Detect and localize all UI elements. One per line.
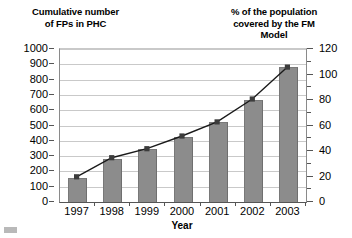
x-axis-tick-label: 2000 [162,205,202,217]
left-axis-tick-label: 600 [2,104,48,115]
left-axis-tick-mark [49,140,54,141]
left-axis-tick-mark [49,201,54,202]
bar [244,100,263,203]
right-axis-tick-mark [307,125,313,126]
x-axis-tick-label: 2003 [267,205,307,217]
x-axis-tick-label: 2002 [232,205,272,217]
gridline [60,126,306,127]
left-axis-tick-mark [49,109,54,110]
bar [103,159,122,202]
left-axis-title: Cumulative number of FPs in PHC [8,6,143,29]
right-axis-minor-tick-mark [307,137,311,138]
right-axis-tick-label: 0 [319,196,351,207]
right-axis-minor-tick-mark [307,61,311,62]
bar [279,67,298,202]
x-axis-tick-label: 2001 [197,205,237,217]
right-axis-tick-mark [307,176,313,177]
right-axis-tick-label: 100 [319,69,351,80]
x-axis-tick-label: 1997 [57,205,97,217]
right-value-axis: 020406080100120 [306,40,352,210]
right-axis-title: % of the population covered by the FM Mo… [206,6,342,41]
right-axis-minor-tick-mark [307,112,311,113]
x-axis-title: Year [142,220,222,231]
right-axis-tick-label: 80 [319,94,351,105]
plot-area [59,48,307,203]
right-axis-minor-tick-mark [307,163,311,164]
right-axis-minor-tick-mark [307,86,311,87]
right-axis-tick-mark [307,99,313,100]
bar [209,122,228,202]
right-axis-tick-label: 20 [319,171,351,182]
x-axis-tick-label: 1999 [127,205,167,217]
chart-container: Cumulative number of FPs in PHC % of the… [0,0,352,238]
left-axis-tick-label: 0 [2,196,48,207]
right-axis-minor-tick-mark [307,188,311,189]
left-axis-tick-label: 300 [2,150,48,161]
left-axis-tick-label: 500 [2,120,48,131]
gridline [60,49,306,50]
gridline [60,64,306,65]
left-axis-tick-mark [49,170,54,171]
x-axis-tick-label: 1998 [92,205,132,217]
left-axis-tick-mark [49,125,54,126]
gridline [60,95,306,96]
right-axis-tick-mark [307,150,313,151]
right-axis-tick-label: 120 [319,43,351,54]
right-axis-tick-label: 60 [319,120,351,131]
bar [68,178,87,202]
left-axis-tick-label: 400 [2,135,48,146]
left-axis-tick-mark [49,186,54,187]
left-axis-tick-label: 800 [2,74,48,85]
left-axis-tick-label: 100 [2,181,48,192]
right-axis-tick-mark [307,74,313,75]
left-axis-tick-mark [49,79,54,80]
left-axis-tick-label: 700 [2,89,48,100]
left-value-axis: 01002003004005006007008009001000 [0,40,57,210]
left-axis-tick-mark [49,155,54,156]
left-axis-tick-mark [49,63,54,64]
left-axis-tick-label: 1000 [2,43,48,54]
left-axis-tick-mark [49,94,54,95]
scan-artifact-mark [4,227,17,233]
left-axis-tick-label: 200 [2,165,48,176]
left-axis-tick-mark [49,48,54,49]
x-axis-tick-mark [305,202,306,206]
bar [174,137,193,202]
right-axis-tick-mark [307,48,313,49]
gridline [60,110,306,111]
left-axis-tick-label: 900 [2,58,48,69]
gridline [60,80,306,81]
right-axis-tick-mark [307,201,313,202]
right-axis-tick-label: 40 [319,145,351,156]
bar [138,149,157,202]
